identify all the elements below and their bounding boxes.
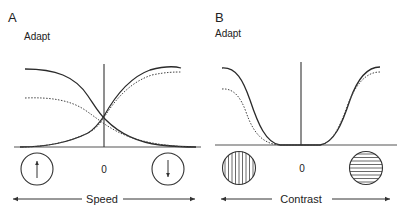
axis-label-speed: Speed (86, 193, 118, 205)
figure: A Adapt 0 Speed B Adapt (0, 0, 406, 214)
zero-label-a: 0 (101, 164, 107, 175)
curve-dotted-increasing-a (22, 72, 181, 147)
adapt-label-a: Adapt (24, 31, 50, 42)
vertical-grating-stimulus (223, 150, 256, 186)
zero-label-b: 0 (299, 163, 305, 174)
panel-letter-a: A (8, 10, 17, 25)
panel-letter-b: B (215, 10, 224, 25)
downward-motion-stimulus (152, 153, 184, 185)
axis-label-contrast: Contrast (280, 193, 322, 205)
horizontal-grating-stimulus (348, 152, 384, 185)
upward-motion-stimulus (21, 153, 53, 185)
panel-b: B Adapt 0 (215, 10, 397, 205)
panel-a: A Adapt 0 Speed (8, 10, 201, 205)
adapt-label-b: Adapt (215, 28, 241, 39)
curve-solid-increasing-a (20, 67, 181, 147)
